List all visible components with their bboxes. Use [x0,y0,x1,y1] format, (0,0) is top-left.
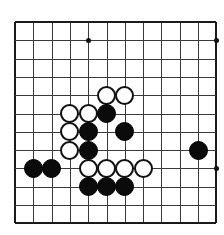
stone-black-5-5[interactable] [97,104,116,123]
stone-black-6-6[interactable] [115,122,134,141]
grid-line-horizontal-2 [15,59,216,60]
grid-line-horizontal-11 [15,222,216,224]
stone-black-10-7[interactable] [189,141,208,160]
stone-white-5-4[interactable] [97,86,116,105]
grid-line-horizontal-1 [15,40,216,41]
grid-line-horizontal-3 [15,77,216,78]
grid-line-vertical-0 [14,22,16,223]
stone-black-4-7[interactable] [79,141,98,160]
grid-line-vertical-2 [52,22,53,223]
grid-line-vertical-11 [215,22,217,223]
grid-line-vertical-9 [180,22,181,223]
grid-line-horizontal-10 [15,205,216,206]
stone-white-4-8[interactable] [79,159,98,178]
stone-white-6-4[interactable] [115,86,134,105]
grid-line-vertical-8 [161,22,162,223]
stone-white-3-7[interactable] [60,141,79,160]
go-board-diagram [0,0,224,235]
stone-white-5-8[interactable] [97,159,116,178]
stone-black-4-6[interactable] [79,122,98,141]
stone-black-5-9[interactable] [97,177,116,196]
stone-black-4-9[interactable] [79,177,98,196]
grid-line-horizontal-0 [15,21,216,23]
stone-white-3-5[interactable] [60,104,79,123]
star-point-4-1 [86,38,91,43]
goban-grid[interactable] [0,0,224,235]
star-point-11-8 [214,166,219,171]
stone-black-1-8[interactable] [24,159,43,178]
grid-line-vertical-1 [33,22,34,223]
stone-white-4-5[interactable] [79,104,98,123]
grid-line-vertical-7 [143,22,144,223]
stone-black-2-8[interactable] [42,159,61,178]
grid-line-vertical-10 [198,22,199,223]
star-point-11-1 [214,38,219,43]
stone-white-3-6[interactable] [60,122,79,141]
stone-black-6-9[interactable] [115,177,134,196]
stone-white-7-8[interactable] [134,159,153,178]
stone-white-6-8[interactable] [115,159,134,178]
grid-line-horizontal-7 [15,150,216,151]
